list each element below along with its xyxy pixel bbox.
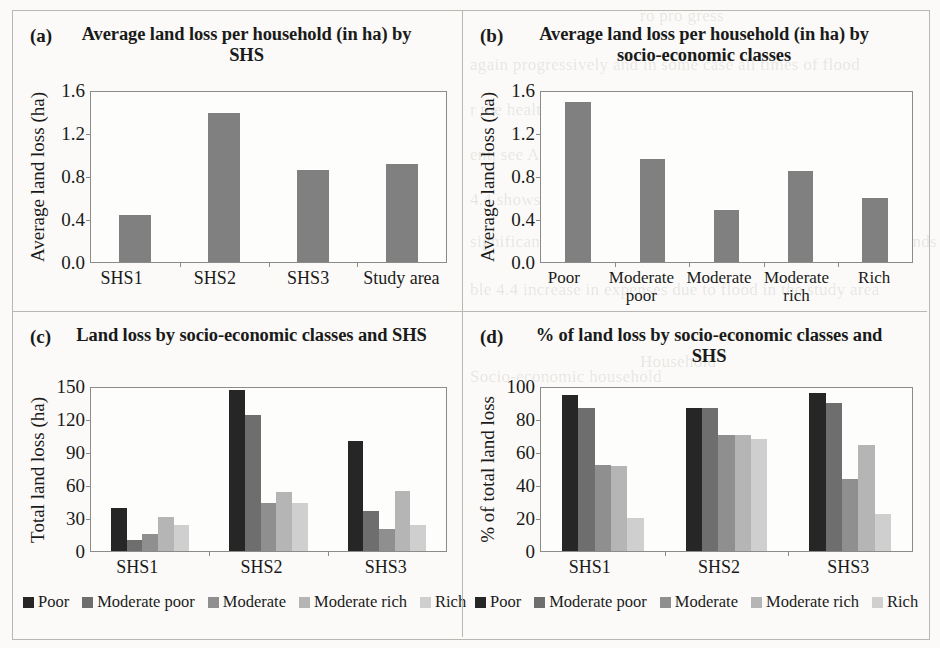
legend-item[interactable]: Moderate rich [299,592,407,612]
x-tick-label: SHS3 [324,558,448,577]
bar [702,408,718,551]
panel-c-xlabels: SHS1SHS2SHS3 [75,558,448,577]
bar [611,466,627,551]
x-tick-label: SHS2 [168,269,261,288]
figure-page: ro pro gressagain progressively and in s… [0,0,940,648]
panel-a-tag: (a) [30,25,52,47]
bar [292,503,308,551]
legend-item[interactable]: Moderate rich [751,592,859,612]
bar [348,441,364,551]
panel-b-xlabels: PoorModeratepoorModerateModeraterichRich [525,269,913,306]
x-tick-label: Rich [835,269,913,306]
legend-swatch-icon [23,597,34,608]
bar [875,514,891,551]
legend-swatch-icon [534,597,545,608]
x-tick-label: Moderatepoor [603,269,681,306]
bar [276,492,292,551]
bar [578,408,594,551]
bar [627,518,643,551]
panel-b-plot: Average land loss (ha) 0.00.40.81.21.6 [477,91,913,263]
panel-a-yaxis: 0.00.40.81.21.6 [49,91,91,263]
legend-item[interactable]: Rich [872,592,918,612]
legend-swatch-icon [660,597,671,608]
y-tick-label: 20 [516,508,535,530]
bar-group-inner [562,388,644,551]
x-tick-label: SHS1 [75,269,168,288]
bar [718,435,734,551]
panel-c-plotarea [91,387,447,552]
legend-item[interactable]: Moderate [660,592,738,612]
panel-a-plotarea [91,91,447,263]
bar [229,390,245,551]
panel-b-title: Average land loss per household (in ha) … [463,11,927,65]
bar-group [788,388,912,551]
y-tick-label: 0.4 [61,209,85,231]
legend-item[interactable]: Poor [475,592,521,612]
bar [395,491,411,551]
bar [363,511,379,551]
bar [842,479,858,551]
panel-b-plotarea [541,91,913,263]
panel-a-plot: Average land loss (ha) 0.00.40.81.21.6 [27,91,447,263]
legend-label: Moderate [223,592,286,612]
panel-d-plot: % of total land loss 020406080100 [477,387,913,552]
bar [809,393,825,551]
x-tick-label: SHS1 [525,558,654,577]
panel-d-plotarea [541,387,913,552]
y-tick-label: 30 [66,508,85,530]
bar-group [180,92,269,262]
x-tick-label: SHS2 [199,558,323,577]
y-tick-label: 90 [66,442,85,464]
panel-c-title: Land loss by socio-economic classes and … [13,312,462,346]
bar-group [689,92,763,262]
legend-item[interactable]: Rich [420,592,466,612]
panel-b-ylabel: Average land loss (ha) [477,92,499,262]
figure-grid: (a) Average land loss per household (in … [12,10,930,640]
legend-label: Rich [887,592,918,612]
legend-item[interactable]: Poor [23,592,69,612]
panel-d-bars [541,388,912,551]
x-tick-label: SHS3 [784,558,913,577]
bar [788,171,813,262]
y-tick-label: 1.6 [61,80,85,102]
legend-label: Poor [490,592,521,612]
panel-c-yaxis: 0306090120150 [49,387,91,552]
y-tick-label: 60 [516,442,535,464]
x-tick-label: SHS3 [262,269,355,288]
panel-a-ylabel: Average land loss (ha) [27,92,49,262]
panel-a-xlabels: SHS1SHS2SHS3Study area [75,269,448,288]
bar-group [665,388,789,551]
y-tick-label: 0.4 [511,209,535,231]
panel-d-xlabels: SHS1SHS2SHS3 [525,558,913,577]
legend-swatch-icon [208,597,219,608]
panel-a: (a) Average land loss per household (in … [13,11,462,311]
y-tick-label: 100 [507,376,536,398]
legend-label: Moderate rich [314,592,407,612]
bar-group [541,92,615,262]
y-tick-label: 0.8 [511,166,535,188]
panel-d-yaxis: 020406080100 [499,387,541,552]
legend-swatch-icon [82,597,93,608]
bar [245,415,261,551]
legend-item[interactable]: Moderate poor [534,592,647,612]
legend-item[interactable]: Moderate poor [82,592,195,612]
bar [142,534,158,551]
bar-group-inner [111,388,189,551]
panel-b-yaxis: 0.00.40.81.21.6 [499,91,541,263]
legend-label: Moderate poor [549,592,647,612]
bar [686,408,702,551]
panel-d-ylabel: % of total land loss [477,396,499,543]
bar [826,403,842,551]
bar [714,210,739,262]
legend-item[interactable]: Moderate [208,592,286,612]
legend-label: Moderate rich [766,592,859,612]
y-tick-label: 1.6 [511,80,535,102]
panel-b-bars [541,92,912,262]
legend-label: Moderate [675,592,738,612]
bar [595,465,611,551]
y-tick-label: 120 [57,409,86,431]
panel-d-legend: PoorModerate poorModerateModerate richRi… [475,592,931,612]
bar-group-inner [229,388,307,551]
x-tick-label: SHS1 [75,558,199,577]
bar [386,164,418,262]
